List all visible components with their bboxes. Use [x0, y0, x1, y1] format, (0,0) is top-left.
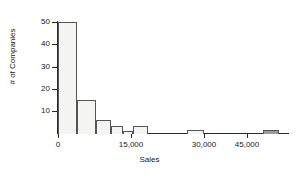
plot-area: 50 40 30 20 10 0 15,000 30,000 45,000	[0, 0, 299, 178]
x-tick-mark-45000	[247, 133, 248, 138]
histogram-bar	[263, 130, 279, 134]
y-axis-title: # of Companies	[8, 7, 17, 107]
y-tick-mark-20	[52, 89, 57, 90]
histogram-bar	[111, 126, 123, 134]
x-tick-label-45000: 45,000	[235, 140, 259, 149]
y-tick-label-20: 20	[28, 85, 50, 93]
y-tick-mark-40	[52, 44, 57, 45]
y-tick-label-50: 50	[28, 18, 50, 26]
y-tick-mark-50	[52, 22, 57, 23]
histogram-bar	[133, 126, 148, 134]
x-tick-label-30000: 30,000	[192, 140, 216, 149]
y-tick-mark-30	[52, 67, 57, 68]
histogram-figure: 50 40 30 20 10 0 15,000 30,000 45,000 Sa…	[0, 0, 299, 178]
y-tick-label-10: 10	[28, 107, 50, 115]
y-tick-label-30: 30	[28, 63, 50, 71]
x-tick-label-0: 0	[56, 140, 60, 149]
histogram-bar	[96, 120, 111, 134]
histogram-bar	[58, 22, 77, 134]
y-tick-mark-10	[52, 111, 57, 112]
y-tick-label-40: 40	[28, 40, 50, 48]
x-axis-title: Sales	[0, 155, 299, 164]
histogram-bar	[77, 100, 96, 134]
x-tick-label-15000: 15,000	[119, 140, 143, 149]
x-tick-mark-30000	[204, 133, 205, 138]
histogram-bar	[187, 130, 204, 134]
histogram-bar	[123, 131, 133, 134]
